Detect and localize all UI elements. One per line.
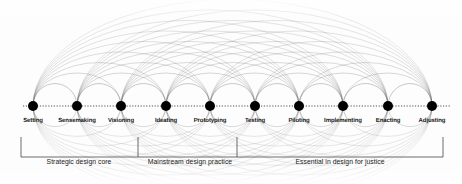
node-label-testing: Testing xyxy=(245,118,265,124)
bracket-label-mainstream-design-practice: Mainstream design practice xyxy=(148,158,232,165)
node-label-sensemaking: Sensemaking xyxy=(58,118,96,124)
node-dot xyxy=(427,101,437,111)
node-dot xyxy=(294,101,304,111)
bracket-label-strategic-design-core: Strategic design core xyxy=(47,158,112,165)
arc-above xyxy=(255,52,432,106)
node-label-adjusting: Adjusting xyxy=(419,118,446,124)
node-dot xyxy=(28,101,38,111)
node-dot xyxy=(338,101,348,111)
arc-above xyxy=(77,52,255,106)
node-group xyxy=(28,101,437,111)
node-label-implementing: Implementing xyxy=(324,118,362,124)
node-label-piloting: Piloting xyxy=(288,118,309,124)
arc-below xyxy=(121,106,299,156)
arc-above xyxy=(33,0,432,106)
arc-group-above xyxy=(33,0,432,106)
arc-diagram-figure: SettingSensemakingVisioningIdeatingProto… xyxy=(0,0,462,184)
node-dot xyxy=(205,101,215,111)
arc-diagram-canvas xyxy=(0,0,462,184)
node-dot xyxy=(72,101,82,111)
node-label-ideating: Ideating xyxy=(155,118,177,124)
arc-above xyxy=(121,52,299,106)
node-dot xyxy=(250,101,260,111)
node-label-prototyping: Prototyping xyxy=(194,118,227,124)
arc-below xyxy=(166,106,343,156)
node-dot xyxy=(383,101,393,111)
arc-below xyxy=(255,106,432,156)
arc-above xyxy=(77,10,432,106)
arc-above xyxy=(33,10,388,106)
node-label-setting: Setting xyxy=(23,118,43,124)
bracket-label-essential-in-design-for-justice: Essential in design for justice xyxy=(295,158,384,165)
arc-above xyxy=(166,52,343,106)
node-dot xyxy=(161,101,171,111)
arc-above xyxy=(210,52,388,106)
node-label-enacting: Enacting xyxy=(376,118,401,124)
arc-below xyxy=(77,106,255,156)
node-dot xyxy=(116,101,126,111)
node-label-visioning: Visioning xyxy=(108,118,134,124)
